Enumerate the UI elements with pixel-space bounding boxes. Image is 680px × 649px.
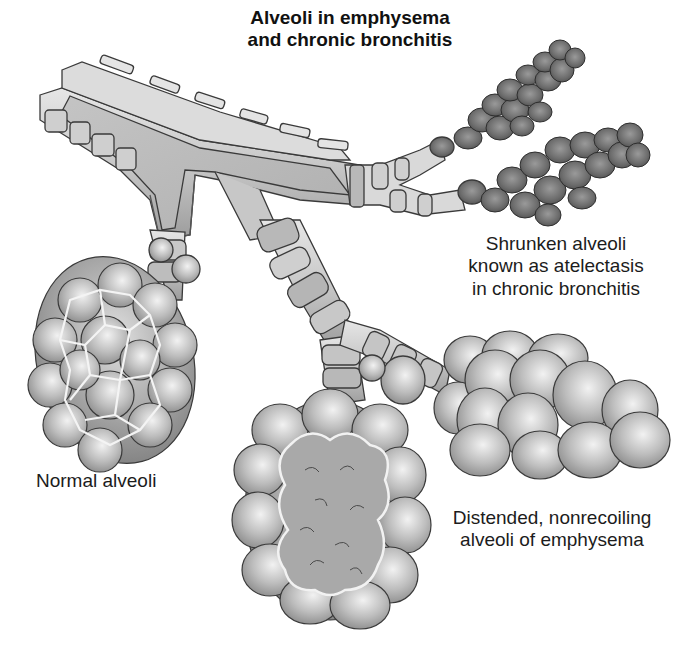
emphysema-label-line-1: Distended, nonrecoiling	[428, 507, 676, 529]
bronchus	[40, 54, 360, 240]
atelectasis-label-line-3: in chronic bronchitis	[438, 278, 674, 300]
normal-label-line-1: Normal alveoli	[36, 470, 186, 492]
atelectasis-label-line-2: known as atelectasis	[438, 255, 674, 277]
emphysema-label: Distended, nonrecoiling alveoli of emphy…	[428, 507, 676, 552]
diagram-canvas: Alveoli in emphysema and chronic bronchi…	[0, 0, 680, 649]
atelectasis-label: Shrunken alveoli known as atelectasis in…	[438, 233, 674, 300]
emphysema-label-line-2: alveoli of emphysema	[428, 529, 676, 551]
atelectasis-cluster-upper	[454, 40, 585, 149]
atelectasis-label-line-1: Shrunken alveoli	[438, 233, 674, 255]
emphysema-alveoli-cluster	[232, 389, 431, 629]
diagram-title: Alveoli in emphysema and chronic bronchi…	[200, 7, 500, 51]
title-line-1: Alveoli in emphysema	[200, 7, 500, 29]
distended-alveoli-cluster	[434, 331, 670, 479]
normal-alveoli-label: Normal alveoli	[36, 470, 186, 492]
title-line-2: and chronic bronchitis	[200, 29, 500, 51]
bronchiole-middle	[255, 216, 450, 405]
